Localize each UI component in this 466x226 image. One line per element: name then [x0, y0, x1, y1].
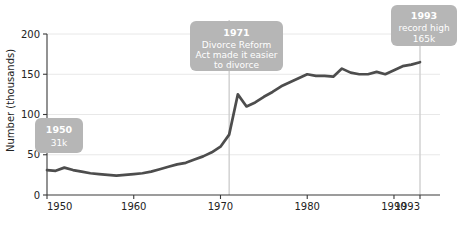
y-tick-label-150: 150 — [21, 69, 40, 80]
annotation-1993-callout: 1993 record high 165k — [391, 5, 457, 46]
callout-1993-title: 1993 — [411, 10, 437, 21]
callout-1971-title: 1971 — [223, 27, 249, 38]
callout-1950-title: 1950 — [46, 124, 73, 135]
callout-1950-line-1: 31k — [51, 138, 68, 148]
x-tick-marks — [47, 195, 420, 199]
divorce-line-chart: 050100150200 195019601970198019901993 Nu… — [0, 0, 466, 226]
y-tick-labels: 050100150200 — [21, 29, 40, 201]
x-tick-label-1993: 1993 — [395, 201, 420, 212]
y-tick-label-200: 200 — [21, 29, 40, 40]
divorce-series-line — [47, 62, 420, 175]
y-axis-title: Number (thousands) — [5, 49, 16, 152]
x-tick-label-1980: 1980 — [295, 201, 320, 212]
x-tick-labels: 195019601970198019901993 — [47, 201, 420, 212]
annotation-1950-callout: 1950 31k — [35, 118, 83, 153]
x-tick-label-1960: 1960 — [121, 201, 146, 212]
x-tick-label-1950: 1950 — [47, 201, 72, 212]
callout-1971-line-2: Act made it easier — [195, 50, 277, 60]
annotation-1971-callout: 1971 Divorce Reform Act made it easier t… — [190, 21, 283, 71]
chart-canvas: 050100150200 195019601970198019901993 Nu… — [0, 0, 466, 226]
callout-1993-line-1: record high — [398, 23, 449, 33]
y-tick-label-100: 100 — [21, 109, 40, 120]
y-tick-label-0: 0 — [34, 190, 40, 201]
callout-1971-line-3: to divorce — [214, 60, 259, 70]
callout-1971-line-1: Divorce Reform — [202, 40, 271, 50]
x-tick-label-1970: 1970 — [208, 201, 233, 212]
callout-1993-line-2: 165k — [413, 34, 436, 44]
